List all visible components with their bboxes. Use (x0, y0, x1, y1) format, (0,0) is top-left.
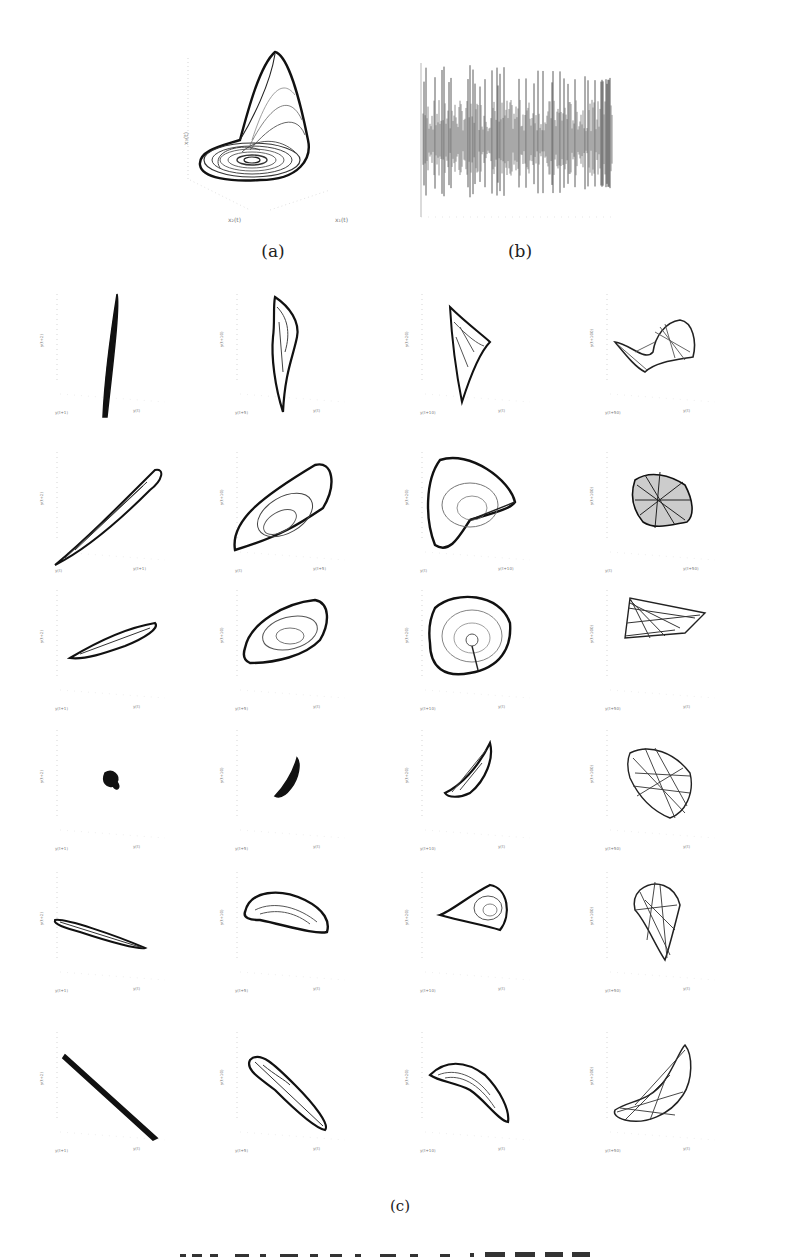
axis-label-x: y(t+1) (55, 988, 68, 993)
axis-label-x: y(t) (605, 568, 612, 573)
phase-portrait-r3c3: y(t+20)y(t+10)y(t) (390, 578, 560, 718)
axis-label-y: y(t+100) (589, 765, 594, 783)
phase-portrait-plot (390, 718, 560, 858)
phase-portrait-plot (25, 440, 195, 580)
axis-label-x: y(t) (55, 568, 62, 573)
axis-label-z: y(t) (498, 844, 505, 849)
axis-label-y: y(t+2) (39, 334, 44, 347)
axis-label-y: y(t+100) (589, 329, 594, 347)
axis-label-z: y(t) (498, 1146, 505, 1151)
figure-caption-partial (180, 1249, 660, 1257)
phase-portrait-plot (205, 860, 375, 1000)
axis-label-y: y(t+10) (219, 332, 224, 348)
phase-portrait-plot (390, 860, 560, 1000)
attractor-3d-plot (180, 40, 380, 230)
phase-portrait-r4c3: y(t+20)y(t+10)y(t) (390, 718, 560, 858)
phase-portrait-r5c4: y(t+100)y(t+50)y(t) (575, 860, 745, 1000)
axis-label-x: y(t+10) (420, 846, 436, 851)
phase-portrait-plot (390, 282, 560, 422)
axis-label-y: y(t+2) (39, 912, 44, 925)
axis-label-z: y(t) (498, 704, 505, 709)
phase-portrait-plot (575, 860, 745, 1000)
panel-c-label: (c) (370, 1197, 430, 1215)
phase-portrait-plot (575, 578, 745, 718)
panel-a-attractor: x₃(t) x₂(t) x₁(t) (180, 40, 380, 230)
axis-label-y: y(t+2) (39, 770, 44, 783)
phase-portrait-r6c4: y(t+100)y(t+50)y(t) (575, 1020, 745, 1160)
phase-portrait-plot (390, 578, 560, 718)
axis-label-x: y(t) (235, 568, 242, 573)
axis-label-x: y(t+5) (235, 706, 248, 711)
panel-b-label: (b) (490, 241, 550, 261)
axis-label-x1: x₁(t) (335, 216, 348, 223)
phase-portrait-r3c1: y(t+2)y(t+1)y(t) (25, 578, 195, 718)
axis-label-x: y(t+5) (235, 410, 248, 415)
axis-label-x: y(t+10) (420, 706, 436, 711)
phase-portrait-plot (25, 282, 195, 422)
axis-label-y: y(t+20) (404, 332, 409, 348)
axis-label-y: y(t+100) (589, 625, 594, 643)
axis-label-z: y(t) (683, 1146, 690, 1151)
phase-portrait-plot (205, 718, 375, 858)
phase-portrait-r5c3: y(t+20)y(t+10)y(t) (390, 860, 560, 1000)
axis-label-z: y(t) (313, 704, 320, 709)
axis-label-z: y(t) (683, 844, 690, 849)
axis-label-z: y(t+10) (498, 566, 514, 571)
axis-label-x: y(t+50) (605, 706, 621, 711)
axis-label-x: y(t+50) (605, 988, 621, 993)
phase-portrait-r2c2: y(t+10)y(t)y(t+5) (205, 440, 375, 580)
phase-portrait-r4c1: y(t+2)y(t+1)y(t) (25, 718, 195, 858)
axis-label-x: y(t+50) (605, 410, 621, 415)
axis-label-z: y(t+5) (313, 566, 326, 571)
axis-label-x: y(t+50) (605, 1148, 621, 1153)
axis-label-z: y(t) (683, 408, 690, 413)
axis-label-x: y(t+5) (235, 1148, 248, 1153)
phase-portrait-plot (25, 1020, 195, 1160)
axis-label-y: y(t+20) (404, 628, 409, 644)
phase-portrait-r6c3: y(t+20)y(t+10)y(t) (390, 1020, 560, 1160)
axis-label-y: y(t+10) (219, 910, 224, 926)
axis-label-x: y(t+50) (605, 846, 621, 851)
phase-portrait-r5c1: y(t+2)y(t+1)y(t) (25, 860, 195, 1000)
axis-label-z: y(t) (133, 408, 140, 413)
axis-label-y: y(t+100) (589, 907, 594, 925)
phase-portrait-plot (575, 440, 745, 580)
axis-label-x: y(t+10) (420, 988, 436, 993)
axis-label-z: y(t) (313, 1146, 320, 1151)
phase-portrait-r2c4: y(t+100)y(t)y(t+50) (575, 440, 745, 580)
axis-label-x2: x₂(t) (228, 216, 241, 223)
axis-label-z: y(t) (133, 844, 140, 849)
axis-label-z: y(t+50) (683, 566, 699, 571)
axis-label-z: y(t) (313, 844, 320, 849)
axis-label-y: y(t+100) (589, 487, 594, 505)
phase-portrait-plot (25, 718, 195, 858)
phase-portrait-r4c2: y(t+10)y(t+5)y(t) (205, 718, 375, 858)
axis-label-y: y(t+2) (39, 1072, 44, 1085)
panel-b-timeseries (418, 60, 618, 225)
phase-portrait-plot (25, 578, 195, 718)
axis-label-z: y(t) (498, 408, 505, 413)
phase-portrait-r6c2: y(t+10)y(t+5)y(t) (205, 1020, 375, 1160)
axis-label-y: y(t+2) (39, 630, 44, 643)
phase-portrait-r2c3: y(t+20)y(t)y(t+10) (390, 440, 560, 580)
axis-label-x: y(t+1) (55, 1148, 68, 1153)
axis-label-y: y(t+20) (404, 490, 409, 506)
axis-label-y: y(t+10) (219, 1070, 224, 1086)
axis-label-z: y(t) (133, 986, 140, 991)
phase-portrait-r4c4: y(t+100)y(t+50)y(t) (575, 718, 745, 858)
axis-label-y: y(t+10) (219, 490, 224, 506)
phase-portrait-plot (575, 282, 745, 422)
timeseries-plot (418, 60, 618, 225)
phase-portrait-plot (390, 1020, 560, 1160)
phase-portrait-plot (205, 1020, 375, 1160)
axis-label-z: y(t) (683, 704, 690, 709)
phase-portrait-r1c4: y(t+100)y(t+50)y(t) (575, 282, 745, 422)
axis-label-x: y(t+10) (420, 410, 436, 415)
axis-label-x: y(t+1) (55, 410, 68, 415)
phase-portrait-r3c2: y(t+10)y(t+5)y(t) (205, 578, 375, 718)
axis-label-x: y(t+10) (420, 1148, 436, 1153)
axis-label-y: y(t+2) (39, 492, 44, 505)
axis-label-y: y(t+10) (219, 628, 224, 644)
phase-portrait-r2c1: y(t+2)y(t)y(t+1) (25, 440, 195, 580)
axis-label-z: y(t+1) (133, 566, 146, 571)
